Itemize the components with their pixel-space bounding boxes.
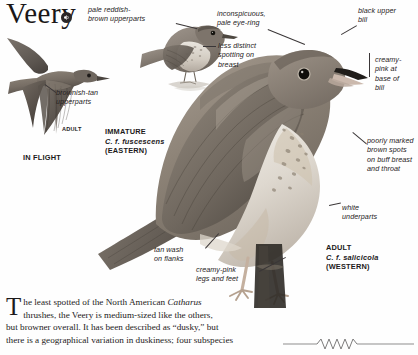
caption-line-1: he least spotted of the North American xyxy=(23,297,167,307)
caption-genus: Catharus xyxy=(167,297,201,307)
plate-age: IMMATURE xyxy=(105,127,164,137)
field-guide-page: Veery xyxy=(0,0,418,355)
caption-line-2: thrushes, the Veery is medium-sized like… xyxy=(23,310,212,320)
plate-range: (WESTERN) xyxy=(326,262,379,272)
caption-line-3: but browner overall. It has been describ… xyxy=(6,322,218,332)
leader-line-creamy-pink-base-of-bill xyxy=(369,53,370,77)
annotation-text: pale reddish- brown upperparts xyxy=(88,5,145,23)
caption-line-4: there is a geographical variation in dus… xyxy=(6,335,233,345)
plate-subspecies: C. f. fuscescens xyxy=(105,137,164,147)
annotation-pale-reddish-brown-upperparts: pale reddish- brown upperparts xyxy=(88,5,180,24)
annotation-poorly-marked-brown-spots: poorly marked brown spots on buff breast… xyxy=(367,136,418,174)
annotation-text: creamy-pink legs and feet xyxy=(196,265,238,283)
leader-line-poorly-marked-brown-spots xyxy=(353,132,367,144)
annotation-text: brownish-tan upperparts xyxy=(56,88,98,106)
plate-label-immature: IMMATURE C. f. fuscescens (EASTERN) xyxy=(105,127,164,156)
plate-label-adult: ADULT C. f. salicicola (WESTERN) xyxy=(326,243,379,272)
annotation-text: less distinct spotting on breast xyxy=(218,41,256,69)
annotation-text: creamy- pink at base of bill xyxy=(375,55,402,92)
annotation-text: black upper bill xyxy=(358,6,396,24)
annotation-inconspicuous-pale-eye-ring: inconspicuous, pale eye-ring xyxy=(217,9,291,28)
annotation-black-upper-bill: black upper bill xyxy=(358,6,416,25)
speaker-icon[interactable] xyxy=(61,12,72,23)
annotation-tan-wash-on-flanks: tan wash on flanks xyxy=(154,245,208,264)
plate-age: ADULT xyxy=(326,243,379,253)
leader-line-less-distinct-spotting xyxy=(203,46,216,47)
annotation-text: white underparts xyxy=(342,203,377,221)
plate-label-flight-adult: ADULT xyxy=(62,126,82,132)
plate-range: (EASTERN) xyxy=(105,146,164,156)
annotation-text: tan wash on flanks xyxy=(154,245,184,263)
annotation-text: poorly marked brown spots on buff breast… xyxy=(367,136,414,173)
annotation-white-underparts: white underparts xyxy=(342,203,396,222)
caption-text: The least spotted of the North American … xyxy=(6,296,292,346)
sonogram-rule xyxy=(283,338,414,350)
annotation-creamy-pink-base-of-bill: creamy- pink at base of bill xyxy=(375,55,417,93)
annotation-brownish-tan-upperparts: brownish-tan upperparts xyxy=(56,88,122,107)
plate-subspecies: C. f. salicicola xyxy=(326,253,379,263)
annotation-less-distinct-spotting: less distinct spotting on breast xyxy=(218,41,280,69)
caption-dropcap: T xyxy=(6,296,23,316)
annotation-text: inconspicuous, pale eye-ring xyxy=(217,9,266,27)
annotation-creamy-pink-legs-and-feet: creamy-pink legs and feet xyxy=(196,265,262,284)
plate-label-in-flight: IN FLIGHT xyxy=(23,153,61,163)
